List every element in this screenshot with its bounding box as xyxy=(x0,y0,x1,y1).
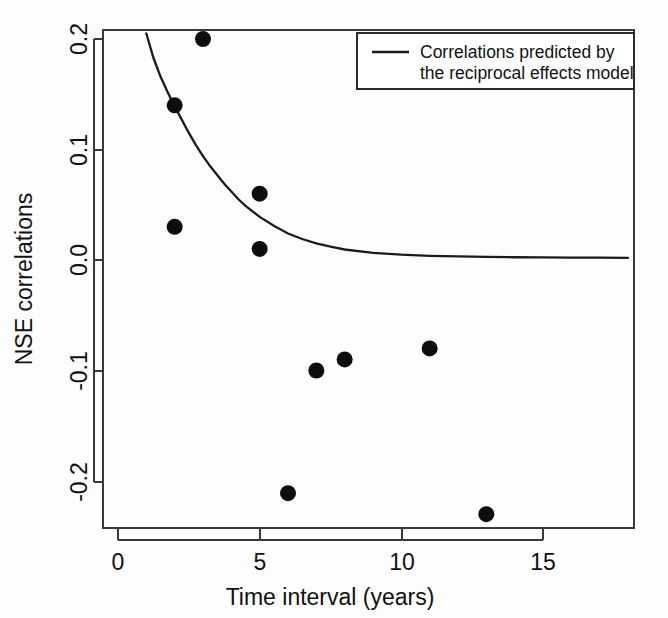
observed-data-points xyxy=(167,31,495,522)
x-axis-title: Time interval (years) xyxy=(226,584,435,610)
x-tick-label-0: 0 xyxy=(112,549,125,575)
chart-figure: 0.2 0.1 0.0 -0.1 -0.2 0 5 10 15 Time int… xyxy=(0,0,668,618)
y-tick-label-0: 0.2 xyxy=(66,23,92,55)
y-tick-label-1: 0.1 xyxy=(66,134,92,166)
data-point xyxy=(195,31,211,47)
data-point xyxy=(308,363,324,379)
x-tick-label-2: 10 xyxy=(389,549,415,575)
legend-label-line-1: Correlations predicted by xyxy=(420,42,615,62)
legend: Correlations predicted by the reciprocal… xyxy=(357,33,634,89)
x-tick-label-1: 5 xyxy=(254,549,267,575)
data-point xyxy=(252,241,268,257)
x-axis-ticks xyxy=(118,528,543,540)
y-tick-label-3: -0.1 xyxy=(66,351,92,391)
scatter-plot-canvas: 0.2 0.1 0.0 -0.1 -0.2 0 5 10 15 Time int… xyxy=(0,0,668,618)
data-point xyxy=(167,219,183,235)
data-point xyxy=(252,186,268,202)
y-tick-label-2: 0.0 xyxy=(66,244,92,276)
y-axis-title: NSE correlations xyxy=(11,193,37,366)
data-point xyxy=(422,340,438,356)
plot-frame xyxy=(103,30,634,528)
y-tick-label-4: -0.2 xyxy=(66,462,92,502)
data-point xyxy=(167,97,183,113)
legend-label-line-2: the reciprocal effects model xyxy=(420,63,634,83)
data-point xyxy=(337,351,353,367)
data-point xyxy=(478,506,494,522)
x-tick-label-3: 15 xyxy=(530,549,556,575)
y-axis-ticks xyxy=(94,39,103,482)
data-point xyxy=(280,485,296,501)
